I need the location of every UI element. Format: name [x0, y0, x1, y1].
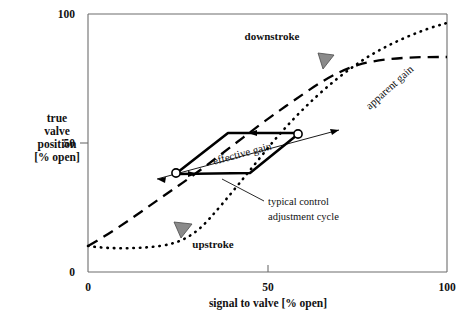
- y-axis-title-line-4: [% open]: [34, 151, 80, 164]
- y-axis-title-line-2: valve: [44, 125, 70, 137]
- control-cycle-marker-left: [172, 169, 180, 177]
- x-axis-title: signal to valve [% open]: [209, 297, 327, 310]
- label-upstroke: upstroke: [192, 238, 233, 250]
- chart-figure: 100 50 0 0 50 100 signal to valve [% ope…: [0, 0, 456, 317]
- annotation-control-cycle-line-2: adjustment cycle: [268, 211, 339, 222]
- xtick-label-100: 100: [438, 281, 456, 293]
- ytick-label-100: 100: [58, 8, 76, 20]
- control-cycle-marker-right: [294, 130, 302, 138]
- xtick-label-50: 50: [262, 281, 274, 293]
- xtick-label-0: 0: [85, 281, 91, 293]
- annotation-control-cycle-line-1: typical control: [268, 196, 329, 207]
- y-axis-title-line-3: position: [38, 138, 78, 151]
- label-downstroke: downstroke: [245, 30, 300, 42]
- ytick-label-0: 0: [69, 266, 75, 278]
- y-axis-title-line-1: true: [47, 112, 67, 124]
- chart-svg: 100 50 0 0 50 100 signal to valve [% ope…: [0, 0, 456, 317]
